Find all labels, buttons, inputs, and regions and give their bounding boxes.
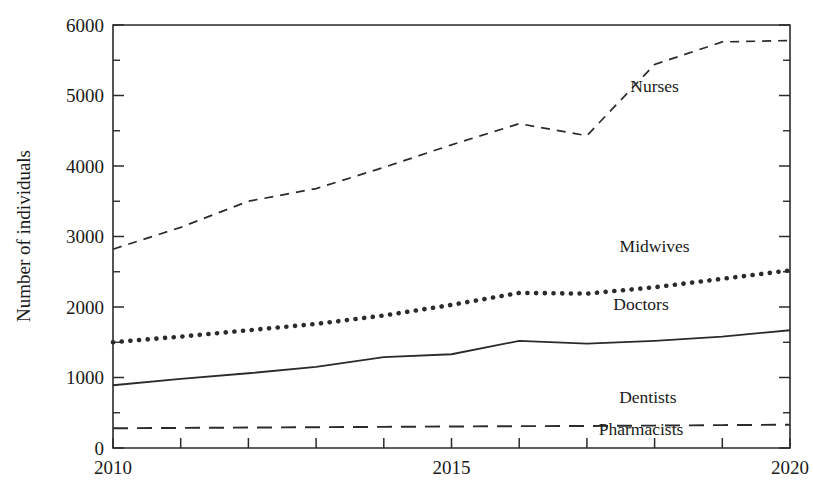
chart-figure: Number of individuals NursesMidwivesDoct… (0, 0, 813, 500)
series-label-pharmacists: Pharmacists (599, 419, 684, 439)
x-tick-label: 2015 (433, 457, 471, 478)
series-label-nurses: Nurses (630, 76, 679, 96)
line-chart: Number of individuals NursesMidwivesDoct… (0, 0, 813, 500)
y-axis-title: Number of individuals (13, 150, 34, 322)
series-group (113, 41, 790, 429)
y-tick-label: 0 (95, 438, 105, 459)
series-label-doctors: Doctors (613, 294, 669, 314)
x-axis-ticks (113, 438, 790, 448)
x-tick-labels: 201020152020 (94, 457, 809, 478)
series-line-doctors (113, 330, 790, 385)
series-label-midwives: Midwives (620, 236, 690, 256)
x-tick-label: 2010 (94, 457, 132, 478)
y-tick-label: 3000 (66, 226, 104, 247)
y-tick-labels: 0100020003000400050006000 (66, 15, 104, 459)
series-line-dentists (113, 425, 790, 429)
y-tick-label: 4000 (66, 156, 104, 177)
series-label-dentists: Dentists (619, 387, 677, 407)
series-line-nurses (113, 41, 790, 250)
x-tick-label: 2020 (771, 457, 809, 478)
y-tick-label: 2000 (66, 297, 104, 318)
y-tick-label: 1000 (66, 367, 104, 388)
series-line-midwives (113, 270, 790, 342)
y-tick-label: 6000 (66, 15, 104, 36)
series-annotations: NursesMidwivesDoctorsDentistsPharmacists (599, 76, 690, 439)
y-tick-label: 5000 (66, 85, 104, 106)
